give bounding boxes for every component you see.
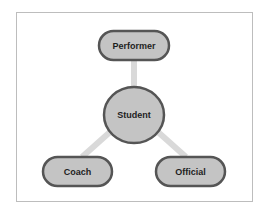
node-official: Official (156, 157, 225, 186)
connector-official (158, 132, 186, 157)
node-label: Student (117, 110, 151, 120)
node-label: Official (175, 167, 206, 177)
diagram-canvas: Performer Student Coach Official (0, 0, 268, 219)
connector-coach (82, 132, 110, 157)
node-coach: Coach (43, 157, 112, 186)
node-performer: Performer (99, 31, 169, 60)
node-student: Student (104, 87, 164, 143)
node-label: Performer (112, 41, 156, 51)
node-label: Coach (64, 167, 92, 177)
